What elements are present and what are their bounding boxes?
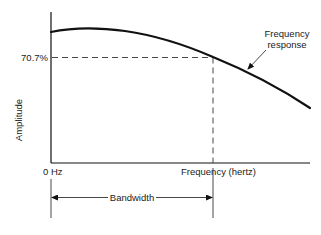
- frequency-response-diagram: Amplitude 70.7% 0 Hz Frequency (hertz) F…: [0, 0, 321, 235]
- bandwidth-label: Bandwidth: [110, 192, 154, 203]
- x-axis-label: Frequency (hertz): [181, 166, 256, 177]
- curve-label-line1: Frequency: [265, 28, 310, 39]
- curve-label-arrow: [248, 50, 266, 69]
- origin-label: 0 Hz: [43, 166, 63, 177]
- y-axis-label: Amplitude: [13, 99, 24, 141]
- half-power-label: 70.7%: [21, 52, 48, 63]
- curve-label-line2: response: [267, 39, 306, 50]
